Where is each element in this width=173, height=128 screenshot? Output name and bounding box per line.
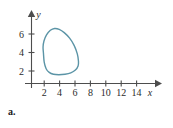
x-tick-label-6: 6 [73, 87, 78, 98]
x-tick-label-8: 8 [88, 87, 93, 98]
y-axis-arrow-icon [28, 10, 35, 17]
figure-panel: 2 4 6 8 10 12 14 2 4 6 x y a. [0, 0, 173, 128]
y-tick-label-6: 6 [19, 29, 24, 40]
x-tick-label-12: 12 [116, 87, 126, 98]
y-axis-label: y [35, 9, 41, 20]
panel-label: a. [8, 106, 16, 117]
x-axis-arrow-icon [155, 80, 162, 87]
x-axis-label: x [147, 87, 153, 98]
y-tick-label-2: 2 [19, 66, 24, 77]
closed-curve [43, 28, 79, 74]
x-tick-label-10: 10 [101, 87, 111, 98]
x-tick-label-14: 14 [132, 87, 142, 98]
y-tick-label-4: 4 [19, 47, 24, 58]
coordinate-plot: 2 4 6 8 10 12 14 2 4 6 x y [0, 0, 173, 128]
x-tick-label-2: 2 [42, 87, 47, 98]
x-tick-label-4: 4 [57, 87, 62, 98]
